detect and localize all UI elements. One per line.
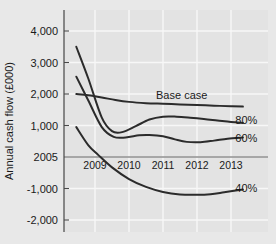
series-label-base-case: Base case	[156, 89, 207, 101]
series-label-60-: 60%	[235, 132, 257, 144]
x-tick-label-2011: 2011	[152, 159, 175, 171]
y-axis-title: Annual cash flow (£000)	[3, 62, 15, 180]
series-label-40-: 40%	[235, 182, 257, 194]
y-tick-label-2000: 2,000	[30, 88, 58, 100]
x-tick-label-2010: 2010	[117, 159, 141, 171]
y-tick-label--2000: -2,000	[27, 214, 58, 226]
cash-flow-line-chart: 4,0003,0002,0001,0002005-1,000-2,000 200…	[0, 0, 276, 244]
origin-year-label: 2005	[34, 151, 58, 163]
x-tick-label-2012: 2012	[185, 159, 209, 171]
y-tick-label--1000: -1,000	[27, 183, 58, 195]
y-tick-label-1000: 1,000	[30, 120, 58, 132]
y-tick-label-4000: 4,000	[30, 25, 58, 37]
series-label-80-: 80%	[235, 114, 257, 126]
y-tick-label-3000: 3,000	[30, 57, 58, 69]
chart-canvas: 4,0003,0002,0001,0002005-1,000-2,000 200…	[0, 0, 276, 244]
x-tick-label-2013: 2013	[219, 159, 243, 171]
